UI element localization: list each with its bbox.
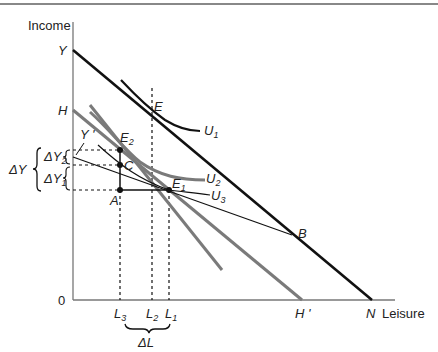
budget-line-YprimeB bbox=[73, 157, 292, 235]
origin-label: 0 bbox=[58, 293, 65, 308]
point-C bbox=[117, 162, 123, 168]
label-Y: Y bbox=[58, 43, 68, 58]
label-Y-prime: Y ' bbox=[80, 127, 95, 142]
point-E2 bbox=[117, 147, 123, 153]
Y-prime-pointer bbox=[76, 143, 84, 155]
label-delta-Y1: ΔY1 bbox=[43, 171, 66, 188]
label-B: B bbox=[298, 226, 307, 241]
label-U2: U2 bbox=[206, 171, 220, 188]
label-L2: L2 bbox=[146, 306, 158, 323]
label-C: C bbox=[124, 158, 134, 173]
label-delta-L: ΔL bbox=[137, 335, 154, 350]
label-delta-Y2: ΔY2 bbox=[43, 149, 66, 166]
budget-line-YN bbox=[73, 50, 372, 300]
delta-L-brace bbox=[125, 324, 170, 333]
label-H-prime: H ' bbox=[295, 306, 311, 321]
label-E2: E2 bbox=[120, 130, 134, 147]
label-U1: U1 bbox=[204, 123, 218, 140]
income-leisure-diagram: Income Leisure 0 Y H E E2 C A E1 B Y ' H… bbox=[0, 0, 438, 352]
label-U3: U3 bbox=[211, 188, 225, 205]
label-L1: L1 bbox=[165, 306, 177, 323]
label-L3: L3 bbox=[114, 306, 126, 323]
label-N: N bbox=[366, 306, 376, 321]
label-E: E bbox=[154, 99, 163, 114]
x-axis-label: Leisure bbox=[382, 306, 425, 321]
label-A: A bbox=[109, 193, 119, 208]
delta-Y-brace bbox=[33, 148, 41, 191]
y-axis-label: Income bbox=[28, 18, 71, 33]
label-H: H bbox=[58, 103, 68, 118]
budget-line-HH bbox=[73, 110, 302, 300]
label-delta-Y: ΔY bbox=[8, 162, 28, 177]
